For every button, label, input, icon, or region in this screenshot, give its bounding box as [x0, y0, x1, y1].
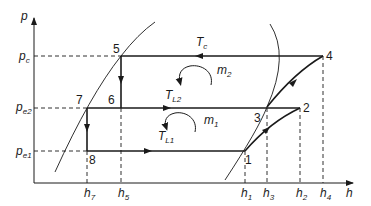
- point-7: 7: [76, 93, 83, 107]
- x-axis-label: h: [346, 186, 353, 200]
- label-pe1: pe1: [15, 144, 32, 160]
- label-pc: pc: [18, 49, 30, 65]
- point-4: 4: [326, 49, 333, 63]
- flow-arrows: [84, 53, 297, 154]
- curl-arrow-m2-icon: [179, 66, 211, 85]
- label-h1: h1: [241, 186, 252, 202]
- arrow-down-icon: [118, 76, 124, 84]
- point-6: 6: [108, 93, 115, 107]
- mass-flow-labels: m2 m1: [204, 63, 232, 129]
- label-m1: m1: [204, 113, 218, 129]
- point-1: 1: [245, 153, 252, 167]
- label-h3: h3: [263, 186, 275, 202]
- enthalpy-labels: h7 h5 h1 h3 h2 h4: [84, 186, 332, 202]
- saturated-liquid-line: [55, 22, 155, 172]
- arrow-right-icon: [144, 148, 152, 154]
- curl-arrow-m1-icon: [165, 113, 195, 132]
- p-h-diagram: p h: [0, 0, 371, 206]
- temperature-labels: Tc TL2 TL1: [158, 35, 207, 145]
- point-3: 3: [254, 111, 261, 125]
- label-h5: h5: [118, 186, 130, 202]
- arrow-left-icon: [195, 53, 203, 59]
- cycle-lines: [87, 56, 323, 151]
- label-Tc: Tc: [196, 35, 207, 51]
- pressure-labels: pc pe2 pe1: [15, 49, 32, 160]
- arrow-down-icon: [84, 124, 90, 132]
- arrow-right-icon: [163, 105, 171, 111]
- state-point-labels: 1 2 3 4 5 6 7 8: [76, 42, 333, 167]
- label-TL1: TL1: [158, 129, 174, 145]
- label-TL2: TL2: [165, 88, 182, 104]
- label-h4: h4: [320, 186, 332, 202]
- label-h7: h7: [84, 186, 96, 202]
- label-pe2: pe2: [15, 100, 32, 116]
- label-m2: m2: [217, 63, 232, 79]
- y-axis-label: p: [20, 9, 28, 23]
- point-5: 5: [113, 42, 120, 56]
- point-2: 2: [303, 101, 310, 115]
- point-8: 8: [89, 153, 96, 167]
- label-h2: h2: [296, 186, 308, 202]
